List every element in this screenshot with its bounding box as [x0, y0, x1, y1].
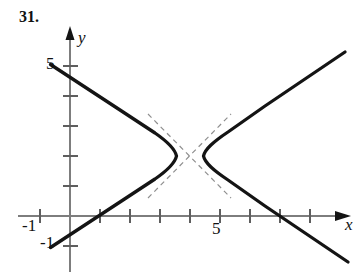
x-tick-label-5: 5 [212, 219, 221, 239]
y-tick-label-5: 5 [46, 54, 55, 74]
x-axis-label: x [345, 215, 353, 235]
x-tick-label-neg1: -1 [22, 216, 36, 236]
y-tick-label-neg1: -1 [40, 233, 54, 253]
y-axis-arrowhead [66, 26, 75, 40]
hyperbola-right-branch [204, 52, 349, 262]
y-axis-label: y [78, 28, 86, 48]
hyperbola-plot [0, 0, 363, 280]
figure-container: 31. [0, 0, 363, 280]
asymptote-lines [148, 114, 231, 198]
